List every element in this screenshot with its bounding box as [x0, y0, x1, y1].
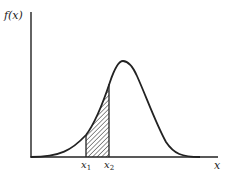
x-axis-label: x: [214, 160, 220, 171]
density-diagram: f(x) x x1 x2: [0, 0, 233, 175]
x1-subscript: 1: [87, 164, 91, 172]
y-axis-label: f(x): [4, 10, 23, 21]
x1-label: x1: [81, 160, 91, 172]
density-plot: [0, 0, 233, 175]
x2-subscript: 2: [110, 164, 114, 172]
x2-label: x2: [104, 160, 114, 172]
shaded-area: [31, 61, 200, 157]
density-curve: [31, 61, 200, 157]
